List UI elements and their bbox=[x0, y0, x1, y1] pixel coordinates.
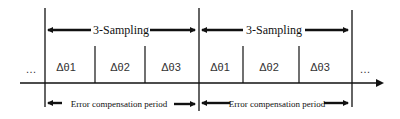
sampling-label: 3-Sampling bbox=[93, 23, 149, 37]
compensation-label: Error compensation period bbox=[71, 99, 168, 109]
increment-label: Δθ1 bbox=[56, 61, 76, 73]
increment-label: Δθ3 bbox=[310, 61, 330, 73]
sampling-label: 3-Sampling bbox=[246, 23, 302, 37]
increment-label: Δθ2 bbox=[259, 61, 279, 73]
timing-diagram: 3-Sampling 3-Sampling Δθ1 Δθ2 Δθ3 Δθ1 Δθ… bbox=[0, 0, 400, 119]
increment-label: Δθ3 bbox=[161, 61, 181, 73]
increment-label: Δθ2 bbox=[110, 61, 130, 73]
ellipsis-left: … bbox=[26, 63, 37, 75]
ellipsis-right: … bbox=[360, 63, 371, 75]
increment-label: Δθ1 bbox=[210, 61, 230, 73]
compensation-label: Error compensation period bbox=[229, 99, 326, 109]
